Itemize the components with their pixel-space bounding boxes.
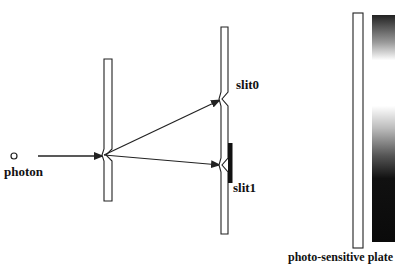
double-slit-barrier xyxy=(219,27,228,234)
exposure-pattern xyxy=(372,15,395,242)
plate-label: photo-sensitive plate xyxy=(288,250,393,265)
photo-sensitive-plate xyxy=(353,13,363,248)
path-to-slit1 xyxy=(104,155,220,165)
slit1-label: slit1 xyxy=(233,180,256,196)
slit0-label: slit0 xyxy=(236,77,259,93)
photon-source-icon xyxy=(11,153,17,159)
slit1-blocker xyxy=(228,143,233,183)
path-to-slit0 xyxy=(104,100,220,155)
first-barrier xyxy=(102,59,112,201)
photon-label: photon xyxy=(4,164,43,180)
double-slit-diagram xyxy=(0,0,417,276)
